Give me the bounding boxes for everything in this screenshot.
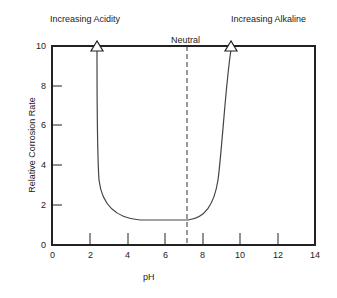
svg-text:8: 8 (41, 81, 46, 91)
y-ticks (52, 86, 62, 205)
x-ticks (90, 233, 278, 245)
corrosion-curve (97, 50, 231, 220)
svg-text:6: 6 (41, 120, 46, 130)
svg-text:10: 10 (235, 250, 245, 260)
y-tick-labels: 0 2 4 6 8 10 (36, 41, 46, 250)
svg-text:6: 6 (163, 250, 168, 260)
svg-text:10: 10 (36, 41, 46, 51)
svg-text:4: 4 (41, 160, 46, 170)
svg-text:8: 8 (200, 250, 205, 260)
svg-text:12: 12 (273, 250, 283, 260)
svg-text:0: 0 (41, 240, 46, 250)
x-tick-labels: 0 2 4 6 8 10 12 14 (50, 250, 320, 260)
chart-plot: 0 2 4 6 8 10 0 2 4 6 8 10 12 14 (0, 0, 337, 298)
svg-text:2: 2 (88, 250, 93, 260)
svg-text:14: 14 (310, 250, 320, 260)
plot-frame (52, 46, 315, 245)
svg-text:4: 4 (125, 250, 130, 260)
svg-text:0: 0 (50, 250, 55, 260)
svg-text:2: 2 (41, 200, 46, 210)
